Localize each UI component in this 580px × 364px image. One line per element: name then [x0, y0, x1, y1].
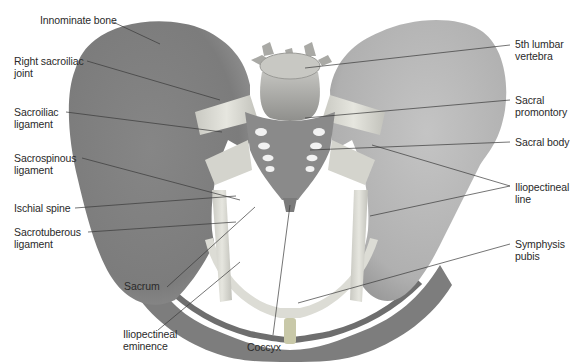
- label-right-sacroiliac-joint: Right sacroiliac joint: [14, 55, 84, 79]
- label-sacrum: Sacrum: [124, 280, 160, 292]
- label-ischial-spine: Ischial spine: [14, 202, 70, 214]
- label-sacroiliac-ligament: Sacroiliac ligament: [14, 106, 59, 130]
- label-symphysis-pubis: Symphysis pubis: [515, 238, 565, 262]
- label-fifth-lumbar-vertebra: 5th lumbar vertebra: [515, 38, 564, 62]
- label-sacral-promontory: Sacral promontory: [515, 94, 567, 118]
- label-sacrotuberous-ligament: Sacrotuberous ligament: [14, 226, 81, 250]
- label-coccyx: Coccyx: [247, 341, 281, 353]
- label-innominate-bone: Innominate bone: [40, 14, 117, 26]
- fifth-lumbar-vertebra: [251, 42, 332, 121]
- pelvis-diagram: Innominate bone Right sacroiliac joint S…: [0, 0, 580, 364]
- label-iliopectineal-line: Iliopectineal line: [515, 181, 569, 205]
- pelvis-illustration: [0, 0, 580, 364]
- label-sacrospinous-ligament: Sacrospinous ligament: [14, 152, 76, 176]
- label-sacral-body: Sacral body: [515, 136, 569, 148]
- label-iliopectineal-eminence: Iliopectineal eminence: [123, 328, 177, 352]
- symphysis-pubis: [284, 318, 296, 344]
